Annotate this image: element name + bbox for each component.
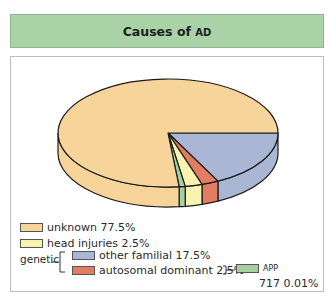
legend-swatch-unknown [20,223,43,232]
legend-label-unknown: unknown 77.5% [47,221,135,234]
bracket-line [52,252,65,272]
legend-item-autosomal-dominant: autosomal dominant 2.5% [72,264,244,277]
pie-side-app [179,186,185,206]
legend-swatch-autosomal-dominant [72,266,95,275]
legend-item-app: APP [236,264,278,273]
bracket-line [223,266,235,274]
pie-side-autosomal-dominant [202,181,218,204]
legend-label-app: APP [263,264,278,273]
legend-item-other-familial: other familial 17.5% [72,249,211,262]
pie-side-head-injuries [185,184,202,206]
legend-swatch-app [236,264,259,273]
app-value: 717 0.01% [259,277,318,290]
genetic-bracket [52,250,74,274]
legend-item-unknown: unknown 77.5% [20,221,135,234]
legend-label-other-familial: other familial 17.5% [99,249,211,262]
legend-swatch-head-injuries [20,239,43,248]
legend-swatch-other-familial [72,251,95,260]
app-bracket [222,264,236,276]
legend-value-app: 717 0.01% [259,277,318,290]
